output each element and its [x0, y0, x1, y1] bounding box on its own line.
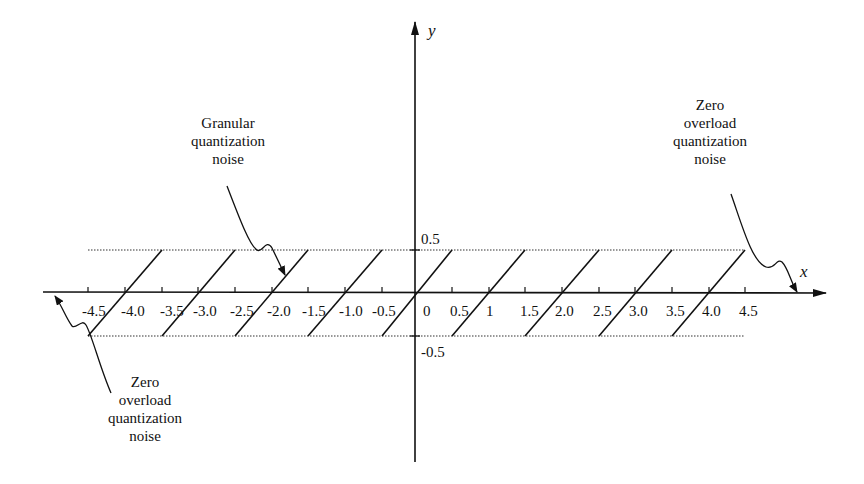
svg-text:noise: noise: [212, 151, 244, 167]
svg-text:quantization: quantization: [191, 133, 266, 149]
svg-text:overload: overload: [684, 115, 737, 131]
svg-text:-2.5: -2.5: [230, 303, 254, 319]
svg-text:-1.0: -1.0: [339, 303, 363, 319]
svg-text:-4.0: -4.0: [121, 303, 145, 319]
granular-noise-annotation: Granular quantization noise: [191, 115, 285, 275]
svg-text:Granular: Granular: [201, 115, 254, 131]
svg-text:4.5: 4.5: [739, 303, 758, 319]
svg-text:2.0: 2.0: [555, 303, 574, 319]
svg-text:noise: noise: [129, 428, 161, 444]
svg-text:-4.5: -4.5: [82, 303, 106, 319]
x-tick-labels: -4.5 -4.0 -3.5 -3.0 -2.5 -2.0 -1.5 -1.0 …: [82, 303, 758, 319]
svg-text:-3.5: -3.5: [160, 303, 184, 319]
x-axis-label: x: [799, 262, 808, 281]
svg-text:1: 1: [486, 303, 494, 319]
svg-text:3.0: 3.0: [629, 303, 648, 319]
svg-text:3.5: 3.5: [666, 303, 685, 319]
svg-text:-2.0: -2.0: [267, 303, 291, 319]
y-axis-label: y: [426, 21, 436, 40]
svg-text:overload: overload: [119, 392, 172, 408]
svg-text:1.5: 1.5: [520, 303, 539, 319]
svg-text:2.5: 2.5: [593, 303, 612, 319]
y-tick-label-pos: 0.5: [421, 231, 440, 247]
svg-text:quantization: quantization: [108, 410, 183, 426]
svg-text:quantization: quantization: [673, 133, 748, 149]
svg-text:-1.5: -1.5: [302, 303, 326, 319]
quantization-noise-diagram: y x 0.5 -0.5 -4.5 -4.0 -3.5 -3.0 -2.5 -2…: [0, 0, 864, 484]
granular-arrow: [227, 186, 285, 275]
svg-text:-3.0: -3.0: [193, 303, 217, 319]
svg-text:Zero: Zero: [696, 97, 724, 113]
svg-text:Zero: Zero: [131, 374, 159, 390]
y-tick-label-neg: -0.5: [421, 344, 445, 360]
svg-text:0: 0: [423, 303, 431, 319]
overload-right-arrow: [731, 194, 797, 292]
svg-text:0.5: 0.5: [450, 303, 469, 319]
svg-text:noise: noise: [694, 151, 726, 167]
svg-text:4.0: 4.0: [702, 303, 721, 319]
svg-text:-0.5: -0.5: [372, 303, 396, 319]
x-ticks: [88, 287, 745, 292]
